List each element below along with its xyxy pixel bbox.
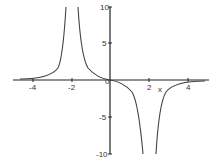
y-tick-label-0: 0	[105, 77, 110, 86]
y-tick-label-m5: -5	[99, 113, 107, 122]
chart: 10 5 0 -5 -10 -4 -2 2 4 x	[0, 0, 224, 163]
x-tick-label-m4: -4	[29, 83, 37, 92]
y-tick-label-10: 10	[100, 3, 109, 12]
y-tick-label-5: 5	[102, 39, 107, 48]
x-axis-label: x	[158, 85, 162, 94]
x-tick-label-2: 2	[147, 83, 152, 92]
x-tick-label-m2: -2	[68, 83, 76, 92]
curve-left-outer	[20, 7, 66, 79]
curve-right-outer	[156, 81, 205, 154]
x-tick-label-4: 4	[186, 83, 191, 92]
y-tick-label-m10: -10	[96, 150, 108, 159]
curve-right-inner	[110, 80, 143, 154]
